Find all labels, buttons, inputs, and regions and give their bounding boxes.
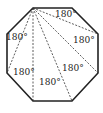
triangle-label-6: 180° xyxy=(6,32,28,42)
triangle-label-1: 180° xyxy=(55,9,77,19)
triangle-label-2: 180° xyxy=(73,35,95,45)
diagonal-3 xyxy=(33,8,72,101)
triangle-label-3: 180° xyxy=(62,63,84,73)
triangle-label-4: 180° xyxy=(39,77,61,87)
octagon-diagram: 180° 180° 180° 180° 180° 180° xyxy=(0,0,103,113)
triangle-label-5: 180° xyxy=(13,67,35,77)
